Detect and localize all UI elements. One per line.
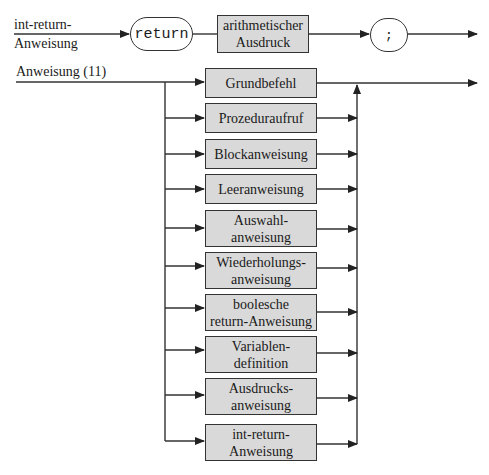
terminal-return: return	[130, 17, 193, 51]
rule1-label-line1: int-return-	[14, 16, 78, 33]
alt-line1: Ausdrucks-	[229, 380, 294, 397]
rule2-label: Anweisung (11)	[16, 63, 106, 80]
alt-line1: Variablen-	[232, 338, 290, 355]
terminal-semicolon: ;	[370, 18, 408, 52]
alt-line1: Leeranweisung	[218, 181, 304, 198]
alt-line1: Grundbefehl	[226, 75, 297, 92]
alt-line2: anweisung	[231, 229, 291, 246]
alt-blockanweisung: Blockanweisung	[205, 139, 317, 169]
alt-line2: return-Anweisung	[210, 313, 312, 330]
alt-prozeduraufruf: Prozeduraufruf	[205, 103, 317, 133]
terminal-semicolon-text: ;	[385, 28, 393, 43]
nonterminal-line1: arithmetischer	[223, 17, 303, 34]
alt-ausdrucksanweisung: Ausdrucks- anweisung	[205, 378, 317, 415]
alt-line1: boolesche	[233, 296, 289, 313]
alt-line1: Blockanweisung	[214, 146, 307, 163]
alt-line1: Wiederholungs-	[216, 254, 306, 271]
alt-grundbefehl: Grundbefehl	[205, 68, 317, 98]
nonterminal-line2: Ausdruck	[236, 34, 290, 51]
alt-line2: Anweisung	[229, 443, 293, 460]
nonterminal-arithmetischer-ausdruck: arithmetischer Ausdruck	[217, 15, 309, 53]
alt-line1: Prozeduraufruf	[219, 110, 304, 127]
terminal-return-text: return	[134, 26, 188, 43]
alt-line1: int-return-	[232, 426, 290, 443]
alt-line2: anweisung	[231, 271, 291, 288]
alt-auswahlanweisung: Auswahl- anweisung	[205, 210, 317, 247]
alt-boolesche-return-anweisung: boolesche return-Anweisung	[205, 294, 317, 331]
alt-leeranweisung: Leeranweisung	[205, 174, 317, 204]
rule1-label-line2: Anweisung	[14, 35, 78, 52]
alt-int-return-anweisung: int-return- Anweisung	[205, 424, 317, 461]
alt-line2: anweisung	[231, 397, 291, 414]
alt-line1: Auswahl-	[234, 212, 288, 229]
alt-wiederholungsanweisung: Wiederholungs- anweisung	[205, 252, 317, 289]
alt-variablendefinition: Variablen- definition	[205, 336, 317, 373]
alt-line2: definition	[234, 355, 288, 372]
rule1-label: int-return- Anweisung	[14, 16, 78, 52]
